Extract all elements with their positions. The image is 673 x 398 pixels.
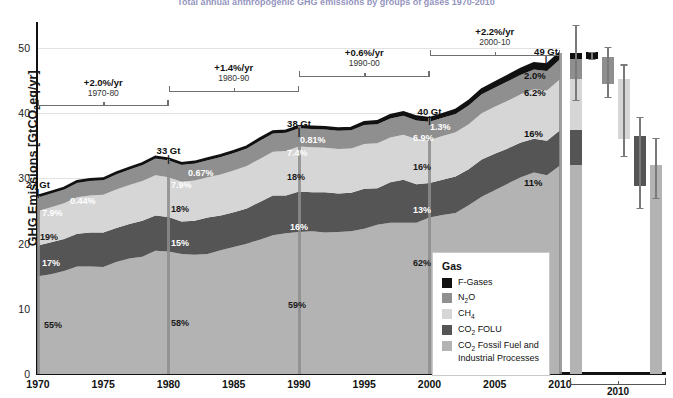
edge-share-2010-2: 16% bbox=[524, 128, 543, 139]
growth-period-1980-90: 1980-90 bbox=[214, 74, 253, 84]
year-marker-2000 bbox=[428, 118, 431, 374]
growth-bracket-label-1990-00: +0.6%/yr1990-00 bbox=[345, 48, 384, 69]
chart-root: Total annual anthropogenic GHG emissions… bbox=[0, 0, 673, 398]
legend-item-1[interactable]: N2O bbox=[442, 292, 540, 305]
growth-period-1990-00: 1990-00 bbox=[345, 59, 384, 69]
edge-share-2010-3: 11% bbox=[524, 177, 543, 188]
legend-label-4: CO2 Fossil Fuel and Industrial Processes bbox=[458, 340, 540, 364]
right-bar-errorcap-low bbox=[605, 97, 612, 98]
right-bar-errorcap-high bbox=[605, 47, 612, 48]
share-1970-0: 7.9% bbox=[42, 208, 63, 218]
edge-share-2010-1: 6.2% bbox=[524, 87, 546, 98]
share-2000-fgases: 1.3% bbox=[430, 122, 451, 132]
growth-period-1970-80: 1970-80 bbox=[84, 89, 123, 99]
share-1990-0: 7.4% bbox=[287, 148, 308, 158]
year-marker-2010 bbox=[559, 53, 562, 374]
share-1980-2: 15% bbox=[171, 238, 189, 248]
share-2000-2: 13% bbox=[413, 205, 431, 215]
share-2000-1: 16% bbox=[413, 162, 431, 172]
legend-swatch-0 bbox=[442, 278, 452, 288]
milestone-total-1990: 38 Gt| bbox=[287, 118, 311, 135]
growth-bracket-label-2000-10: +2.2%/yr2000-10 bbox=[475, 27, 514, 48]
share-2000-0: 6.9% bbox=[413, 133, 434, 143]
y-tick-20: 20 bbox=[0, 238, 30, 250]
right-panel-axis-label: 2010 bbox=[607, 386, 629, 397]
legend-label-3: CO2 FOLU bbox=[458, 324, 502, 337]
legend-swatch-1 bbox=[442, 293, 452, 303]
right-bar-errorbar bbox=[575, 25, 576, 100]
legend-swatch-3 bbox=[442, 325, 452, 335]
right-bar-n2o-2010 bbox=[602, 22, 614, 374]
share-1970-1: 19% bbox=[40, 232, 58, 242]
legend-swatch-4 bbox=[442, 341, 452, 351]
right-bar-errorcap-low bbox=[589, 59, 596, 60]
legend-item-4[interactable]: CO2 Fossil Fuel and Industrial Processes bbox=[442, 340, 540, 364]
share-1970-2: 17% bbox=[42, 258, 60, 268]
right-bar-errorcap-high bbox=[589, 52, 596, 53]
year-marker-1970 bbox=[37, 196, 40, 374]
x-tick-2000: 2000 bbox=[418, 378, 441, 390]
share-1990-2: 16% bbox=[290, 222, 308, 232]
x-tick-1980: 1980 bbox=[157, 378, 180, 390]
share-1980-3: 58% bbox=[171, 318, 189, 328]
right-bar-errorcap-high bbox=[573, 25, 580, 26]
right-bar-total-2010 bbox=[570, 22, 582, 374]
share-1970-3: 55% bbox=[44, 320, 62, 330]
right-panel-2010 bbox=[566, 22, 670, 374]
x-tick-2005: 2005 bbox=[483, 378, 506, 390]
growth-bracket-1980-90 bbox=[169, 83, 300, 92]
legend-item-3[interactable]: CO2 FOLU bbox=[442, 324, 540, 337]
share-1970-fgases: 0.44% bbox=[70, 196, 96, 206]
right-bar-errorbar bbox=[655, 138, 656, 198]
share-2000-3: 62% bbox=[413, 258, 431, 268]
right-bar-co2-fossil-2010 bbox=[650, 22, 662, 374]
growth-bracket-label-1970-80: +2.0%/yr1970-80 bbox=[84, 78, 123, 99]
share-1990-fgases: 0.81% bbox=[300, 135, 326, 145]
right-bar-segment-1 bbox=[570, 130, 582, 165]
right-bar-errorcap-low bbox=[637, 208, 644, 209]
x-tick-2010: 2010 bbox=[548, 378, 571, 390]
right-bar-errorcap-high bbox=[621, 64, 628, 65]
right-bar-co2-folu-2010 bbox=[634, 22, 646, 374]
legend-item-2[interactable]: CH4 bbox=[442, 308, 540, 321]
y-tick-50: 50 bbox=[0, 42, 30, 54]
legend-title: Gas bbox=[442, 260, 540, 272]
milestone-total-2010: 49 Gt| bbox=[534, 46, 558, 63]
right-bar-segment-0 bbox=[570, 165, 582, 374]
share-1990-3: 59% bbox=[288, 300, 306, 310]
right-bar-errorbar bbox=[607, 47, 608, 97]
growth-bracket-label-1980-90: +1.4%/yr1980-90 bbox=[214, 63, 253, 84]
y-tick-10: 10 bbox=[0, 303, 30, 315]
x-tick-1990: 1990 bbox=[287, 378, 310, 390]
legend-label-1: N2O bbox=[458, 292, 475, 305]
legend-label-2: CH4 bbox=[458, 308, 475, 321]
x-tick-1975: 1975 bbox=[92, 378, 115, 390]
right-bar-errorcap-low bbox=[621, 156, 628, 157]
year-marker-1980 bbox=[167, 159, 170, 374]
y-tick-40: 40 bbox=[0, 107, 30, 119]
edge-share-2010-0: 2.0% bbox=[524, 70, 546, 81]
x-tick-1970: 1970 bbox=[26, 378, 49, 390]
share-1980-1: 18% bbox=[171, 204, 189, 214]
right-bar-errorcap-high bbox=[637, 117, 644, 118]
right-bar-f-gases-2010 bbox=[586, 22, 598, 374]
legend-label-0: F-Gases bbox=[458, 277, 493, 288]
legend: Gas F-GasesN2OCH4CO2 FOLUCO2 Fossil Fuel… bbox=[432, 252, 550, 376]
legend-swatch-2 bbox=[442, 309, 452, 319]
growth-period-2000-10: 2000-10 bbox=[475, 38, 514, 48]
x-tick-1985: 1985 bbox=[222, 378, 245, 390]
x-tick-1995: 1995 bbox=[353, 378, 376, 390]
milestone-total-1980: 33 Gt| bbox=[157, 145, 181, 162]
right-bar-errorbar bbox=[639, 117, 640, 208]
legend-rows: F-GasesN2OCH4CO2 FOLUCO2 Fossil Fuel and… bbox=[442, 277, 540, 364]
right-bar-errorcap-low bbox=[653, 198, 660, 199]
share-1990-1: 18% bbox=[287, 172, 305, 182]
share-1980-fgases: 0.67% bbox=[188, 168, 214, 178]
growth-bracket-1990-00 bbox=[299, 68, 430, 77]
chart-title: Total annual anthropogenic GHG emissions… bbox=[177, 0, 494, 7]
right-panel-bracket bbox=[570, 378, 666, 385]
right-bar-errorcap-high bbox=[653, 138, 660, 139]
legend-item-0[interactable]: F-Gases bbox=[442, 277, 540, 288]
share-1980-0: 7.9% bbox=[171, 180, 192, 190]
milestone-total-2000: 40 Gt| bbox=[418, 106, 442, 123]
